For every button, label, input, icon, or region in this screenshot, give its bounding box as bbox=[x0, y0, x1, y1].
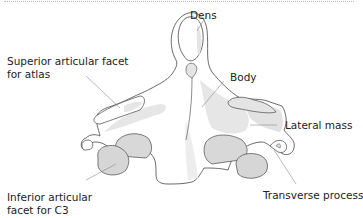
label-transverse-process: Transverse process bbox=[263, 189, 363, 202]
label-lateral-mass: Lateral mass bbox=[285, 119, 352, 132]
leader-transverse-process bbox=[274, 150, 296, 184]
transverse-process-left bbox=[82, 140, 93, 150]
label-superior-articular-facet: Superior articular facet for atlas bbox=[7, 55, 128, 81]
label-body: Body bbox=[230, 71, 257, 84]
label-superior-facet-line2: for atlas bbox=[7, 68, 128, 81]
label-inferior-facet-line1: Inferior articular bbox=[7, 191, 92, 204]
label-dens: Dens bbox=[190, 9, 217, 22]
label-inferior-facet-line2: facet for C3 bbox=[7, 204, 92, 217]
label-superior-facet-line1: Superior articular facet bbox=[7, 55, 128, 68]
label-inferior-articular-facet: Inferior articular facet for C3 bbox=[7, 191, 92, 217]
inferior-facet-right-lower bbox=[236, 153, 268, 178]
